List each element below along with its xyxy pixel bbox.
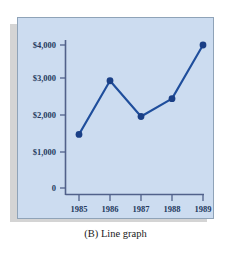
data-point-1986 <box>107 77 114 84</box>
y-tick-label-3000: $3,000 <box>33 73 56 83</box>
data-point-1985 <box>76 131 83 138</box>
x-tick-label-1985: 1985 <box>71 204 88 214</box>
x-tick-label-1987: 1987 <box>133 204 151 214</box>
line-chart-plot: $4,000 $3,000 $2,000 $1,000 0 1985 1986 … <box>18 18 215 220</box>
data-point-1989 <box>200 42 207 49</box>
x-tick-label-1989: 1989 <box>195 204 212 214</box>
data-point-1987 <box>138 113 145 120</box>
y-tick-label-4000: $4,000 <box>33 40 56 50</box>
x-tick-label-1986: 1986 <box>102 204 119 214</box>
y-tick-label-1000: $1,000 <box>33 147 56 157</box>
series-line <box>79 45 203 134</box>
chart-panel: $4,000 $3,000 $2,000 $1,000 0 1985 1986 … <box>17 17 214 219</box>
y-tick-label-2000: $2,000 <box>33 110 56 120</box>
figure-caption: (B) Line graph <box>0 228 231 239</box>
y-tick-label-0: 0 <box>52 183 56 193</box>
series-markers <box>76 42 207 138</box>
data-point-1988 <box>169 95 176 102</box>
x-axis-ticks <box>79 195 203 201</box>
x-tick-label-1988: 1988 <box>164 204 181 214</box>
line-graph-figure: $4,000 $3,000 $2,000 $1,000 0 1985 1986 … <box>0 0 231 253</box>
